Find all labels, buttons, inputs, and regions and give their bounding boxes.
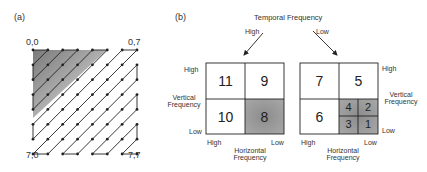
right-vertical-low: Low xyxy=(382,127,395,135)
temporal-frequency-title: Temporal Frequency xyxy=(254,14,322,22)
right-vertical-title-2: Frequency xyxy=(378,98,424,106)
left-horizontal-high: High xyxy=(207,139,221,147)
right-vertical-high: High xyxy=(382,65,396,73)
right-horizontal-low: Low xyxy=(364,139,377,147)
subband-3: 3 xyxy=(339,118,358,130)
right-horizontal-high: High xyxy=(301,139,315,147)
left-horizontal-title-2: Frequency xyxy=(220,154,280,162)
left-horizontal-low: Low xyxy=(271,139,284,147)
subband-9: 9 xyxy=(245,73,284,89)
subband-2: 2 xyxy=(358,101,378,113)
temporal-high-label: High xyxy=(245,28,259,36)
subband-5: 5 xyxy=(339,73,378,89)
left-vertical-title-2: Frequency xyxy=(164,101,204,109)
subband-8: 8 xyxy=(245,109,284,125)
subband-1: 1 xyxy=(358,118,378,130)
subband-7: 7 xyxy=(300,73,339,89)
panel-b-tag: (b) xyxy=(175,12,186,22)
high-temporal-arrow xyxy=(244,33,263,55)
subband-11: 11 xyxy=(206,73,245,89)
subband-4: 4 xyxy=(339,101,358,113)
subband-10: 10 xyxy=(206,109,245,125)
left-vertical-low: Low xyxy=(189,128,202,136)
right-horizontal-title-2: Frequency xyxy=(313,154,373,162)
temporal-low-label: Low xyxy=(316,28,329,36)
left-vertical-high: High xyxy=(184,66,198,74)
subband-6: 6 xyxy=(300,109,339,125)
